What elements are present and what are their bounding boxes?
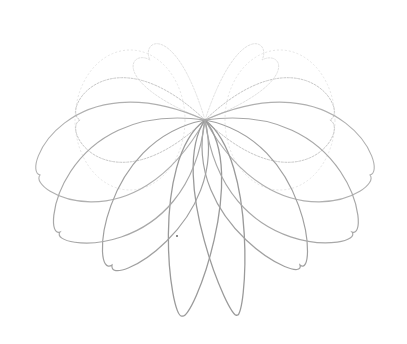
loop-right-front bbox=[205, 118, 358, 243]
loop-left-back bbox=[133, 44, 205, 120]
loop-left-mid bbox=[36, 102, 205, 202]
dot-mark bbox=[176, 235, 178, 237]
loop-left-front bbox=[53, 118, 205, 243]
loop-left-front bbox=[102, 120, 208, 271]
loop-right-back bbox=[205, 44, 279, 120]
loop-drawing bbox=[0, 0, 407, 344]
loop-right-front bbox=[202, 120, 307, 270]
loops bbox=[36, 44, 374, 317]
marks bbox=[176, 235, 178, 237]
toroidal-loop-figure bbox=[0, 0, 407, 344]
